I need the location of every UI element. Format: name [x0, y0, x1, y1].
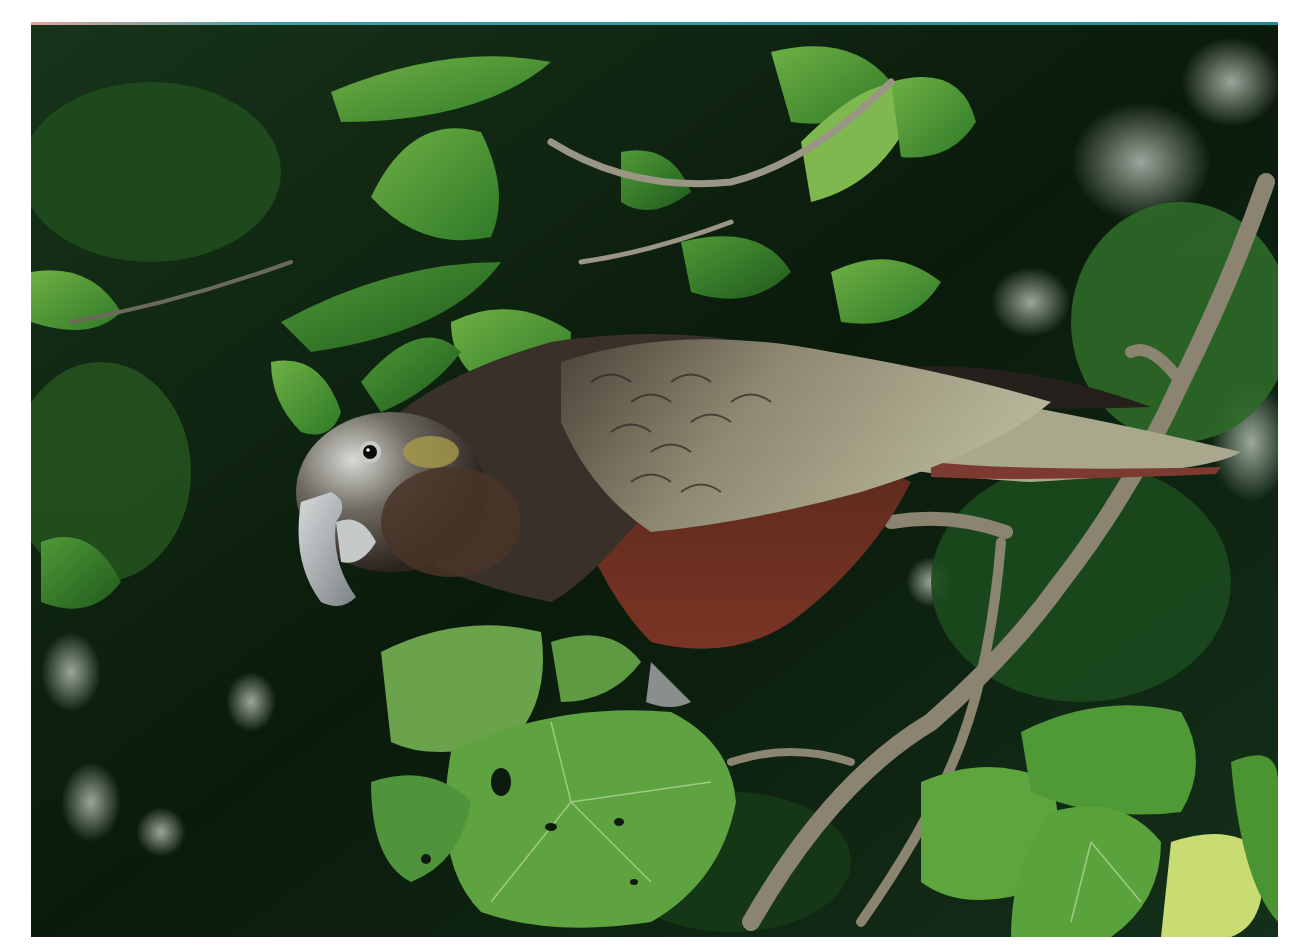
photo — [31, 22, 1278, 937]
kaka-parrot-photo — [31, 22, 1278, 937]
photo-top-edge — [31, 22, 1278, 25]
